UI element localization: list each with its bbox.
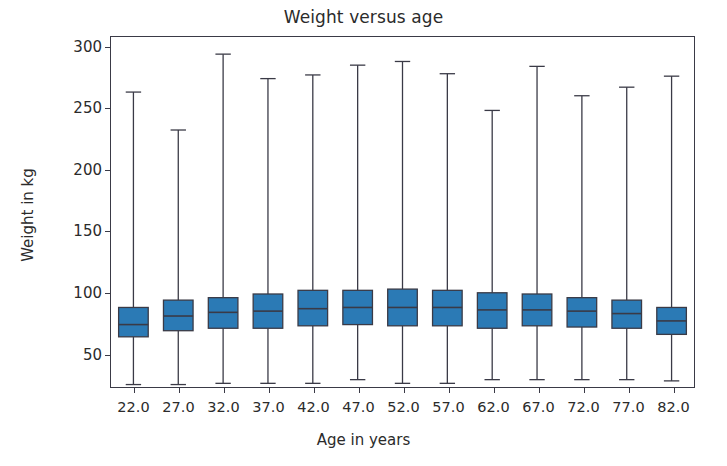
x-tick-label: 27.0 bbox=[162, 398, 194, 416]
x-tick-label: 72.0 bbox=[567, 398, 599, 416]
box-plot-item bbox=[208, 54, 238, 383]
x-axis-label: Age in years bbox=[0, 430, 727, 450]
box-plot-item bbox=[612, 87, 642, 379]
box-plot-item bbox=[119, 92, 149, 384]
y-axis-label: Weight in kg bbox=[18, 125, 38, 305]
box-plot-item bbox=[343, 65, 373, 380]
x-tick-label: 52.0 bbox=[387, 398, 419, 416]
boxplot-series bbox=[111, 37, 694, 387]
y-tick-label: 150 bbox=[73, 223, 102, 239]
x-tick-mark bbox=[629, 387, 630, 393]
x-tick-mark bbox=[314, 387, 315, 393]
box-plot-item bbox=[567, 96, 597, 380]
x-tick-mark bbox=[179, 387, 180, 393]
x-tick-mark bbox=[134, 387, 135, 393]
x-tick-label: 67.0 bbox=[522, 398, 554, 416]
y-tick-label: 300 bbox=[73, 39, 102, 55]
y-tick-label: 50 bbox=[83, 347, 102, 363]
x-tick-mark bbox=[539, 387, 540, 393]
x-tick-label: 62.0 bbox=[477, 398, 509, 416]
box-plot-item bbox=[522, 66, 552, 379]
x-tick-mark bbox=[494, 387, 495, 393]
box-plot-item bbox=[477, 110, 507, 379]
box-plot-item bbox=[657, 76, 687, 381]
x-tick-mark bbox=[449, 387, 450, 393]
box-plot-item bbox=[388, 61, 418, 383]
figure-canvas: Weight versus age Weight in kg Age in ye… bbox=[0, 0, 727, 466]
x-tick-mark bbox=[404, 387, 405, 393]
x-tick-label: 32.0 bbox=[207, 398, 239, 416]
x-tick-label: 37.0 bbox=[252, 398, 284, 416]
x-tick-mark bbox=[674, 387, 675, 393]
y-tick-label: 250 bbox=[73, 100, 102, 116]
x-tick-label: 42.0 bbox=[297, 398, 329, 416]
box-plot-item bbox=[433, 74, 463, 384]
x-tick-label: 77.0 bbox=[612, 398, 644, 416]
x-tick-label: 82.0 bbox=[657, 398, 689, 416]
x-tick-label: 22.0 bbox=[117, 398, 149, 416]
x-tick-label: 47.0 bbox=[342, 398, 374, 416]
box-plot-item bbox=[163, 130, 193, 385]
x-tick-mark bbox=[224, 387, 225, 393]
box-plot-item bbox=[298, 75, 328, 383]
box-body bbox=[567, 298, 597, 327]
x-tick-mark bbox=[269, 387, 270, 393]
y-tick-label: 200 bbox=[73, 162, 102, 178]
box-body bbox=[119, 307, 149, 336]
x-tick-label: 57.0 bbox=[432, 398, 464, 416]
y-tick-label: 100 bbox=[73, 285, 102, 301]
box-plot-item bbox=[253, 79, 283, 384]
chart-title: Weight versus age bbox=[0, 6, 727, 28]
plot-area: 50100150200250300 22.027.032.037.042.047… bbox=[110, 36, 695, 388]
x-tick-mark bbox=[359, 387, 360, 393]
x-tick-mark bbox=[584, 387, 585, 393]
